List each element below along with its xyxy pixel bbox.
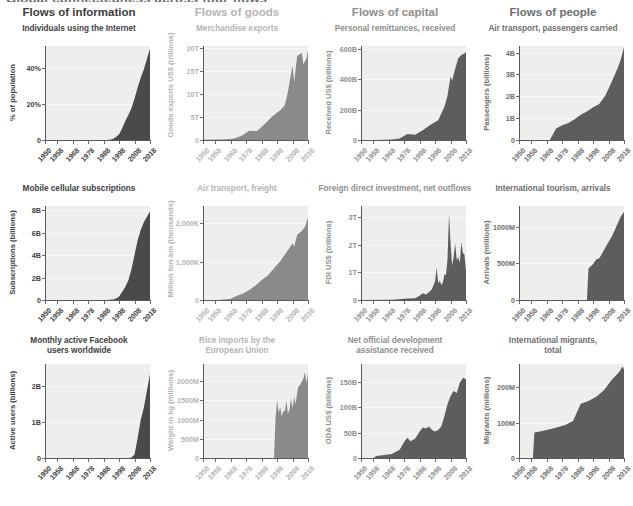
x-tick-mark (150, 459, 151, 462)
y-tick-label: 100B (340, 403, 357, 412)
chart-title-line: Mobile cellular subscriptions (0, 184, 158, 194)
area-series (203, 364, 308, 458)
y-tick-mark (200, 439, 203, 440)
area-fill (361, 52, 466, 140)
y-tick-mark (42, 210, 45, 211)
y-tick-mark (200, 48, 203, 49)
y-tick-label: 15T (187, 67, 199, 76)
x-tick-mark (389, 301, 390, 304)
y-axis-label: % of population (8, 48, 17, 138)
chart-title-line: total (474, 346, 632, 356)
y-axis-label: Passengers (billions) (482, 48, 491, 138)
plot-area (519, 364, 624, 458)
x-tick-mark (203, 141, 204, 144)
x-tick-mark (293, 301, 294, 304)
x-tick-mark (593, 141, 594, 144)
chart-title-line: International tourism, arrivals (474, 184, 632, 194)
x-tick-mark (57, 301, 58, 304)
y-tick-label: 0 (353, 454, 357, 463)
column-header-people: Flows of people (474, 6, 632, 18)
x-tick-mark (88, 459, 89, 462)
x-tick-mark (293, 141, 294, 144)
chart-panel: Mobile cellular subscriptionsSubscriptio… (0, 184, 158, 339)
x-tick-mark (451, 459, 452, 462)
area-fill (45, 212, 150, 300)
y-tick-label: 0 (195, 136, 199, 145)
y-axis-line (519, 364, 520, 458)
y-tick-label: 5T (191, 113, 199, 122)
chart-title-line: International migrants, (474, 336, 632, 346)
column-header-goods: Flows of goods (158, 6, 316, 18)
x-tick-mark (531, 301, 532, 304)
x-tick-mark (435, 141, 436, 144)
y-tick-label: 1B (506, 114, 515, 123)
y-tick-label: 20% (27, 99, 41, 108)
area-fill (361, 378, 466, 458)
y-tick-label: 1500M (177, 396, 199, 405)
plot-area (45, 46, 150, 140)
x-tick-mark (150, 301, 151, 304)
x-tick-mark (451, 301, 452, 304)
x-tick-mark (57, 459, 58, 462)
y-tick-mark (358, 110, 361, 111)
area-series (519, 206, 624, 300)
area-fill (519, 366, 624, 458)
chart-title: Monthly active Facebookusers worldwide (0, 336, 158, 356)
x-tick-mark (420, 459, 421, 462)
x-tick-mark (609, 459, 610, 462)
x-tick-mark (246, 301, 247, 304)
y-tick-label: 500M (181, 434, 199, 443)
y-tick-mark (42, 386, 45, 387)
area-series (45, 46, 150, 140)
y-tick-label: 0 (37, 296, 41, 305)
x-tick-mark (531, 141, 532, 144)
y-tick-mark (516, 423, 519, 424)
x-tick-mark (466, 301, 467, 304)
x-tick-mark (361, 459, 362, 462)
y-axis-line (45, 364, 46, 458)
y-tick-mark (516, 53, 519, 54)
y-tick-label: 3T (349, 213, 357, 222)
x-tick-mark (119, 459, 120, 462)
y-tick-mark (42, 68, 45, 69)
y-axis-label: FDI US$ (trillions) (324, 208, 333, 298)
x-tick-mark (262, 459, 263, 462)
x-tick-mark (404, 141, 405, 144)
y-axis-label: Migrants (millions) (482, 366, 491, 456)
x-tick-mark (578, 301, 579, 304)
x-tick-mark (135, 141, 136, 144)
x-tick-mark (277, 459, 278, 462)
y-tick-label: 50B (344, 428, 357, 437)
x-tick-mark (593, 459, 594, 462)
y-axis-label: Subscriptions (billions) (8, 208, 17, 298)
area-fill (361, 214, 466, 300)
plot-area (519, 206, 624, 300)
x-tick-mark (88, 301, 89, 304)
x-tick-mark (624, 141, 625, 144)
y-tick-mark (358, 217, 361, 218)
y-tick-mark (200, 262, 203, 263)
y-tick-label: 40% (27, 63, 41, 72)
y-axis-line (519, 46, 520, 140)
x-tick-mark (73, 459, 74, 462)
y-axis-label: Arrivals (millions) (482, 208, 491, 298)
x-tick-mark (308, 141, 309, 144)
figure-supertitle: Global connectedness across four flows (0, 0, 633, 2)
x-tick-mark (373, 459, 374, 462)
x-tick-mark (562, 301, 563, 304)
x-tick-mark (435, 459, 436, 462)
y-tick-label: 8B (32, 206, 41, 215)
y-tick-label: 4B (506, 48, 515, 57)
y-tick-label: 0 (353, 136, 357, 145)
y-tick-mark (516, 227, 519, 228)
area-series (361, 46, 466, 140)
x-tick-mark (135, 301, 136, 304)
x-tick-mark (231, 459, 232, 462)
chart-title: International tourism, arrivals (474, 184, 632, 194)
area-series (203, 206, 308, 300)
x-tick-mark (547, 459, 548, 462)
x-tick-mark (215, 301, 216, 304)
x-tick-mark (262, 141, 263, 144)
y-tick-mark (358, 433, 361, 434)
y-tick-mark (516, 96, 519, 97)
